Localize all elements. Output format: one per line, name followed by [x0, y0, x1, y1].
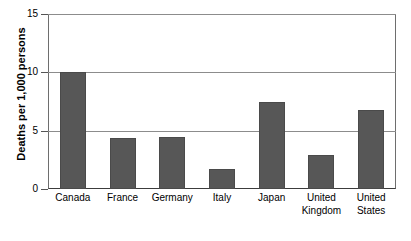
- y-axis-tick: [41, 189, 48, 190]
- x-axis-label-line: Japan: [258, 192, 285, 203]
- x-axis-label: Canada: [48, 192, 98, 205]
- x-axis-label: UnitedStates: [346, 192, 396, 217]
- y-axis-tick-label: 10: [8, 67, 38, 77]
- bar: [60, 72, 86, 189]
- x-axis-label-line: France: [107, 192, 138, 203]
- bar: [308, 155, 334, 189]
- y-axis-tick: [41, 14, 48, 15]
- y-axis-tick: [41, 72, 48, 73]
- y-axis-title: Deaths per 1,000 persons: [15, 0, 27, 189]
- bar: [159, 137, 185, 190]
- x-axis-label: Italy: [197, 192, 247, 205]
- bar: [110, 138, 136, 189]
- bar: [209, 169, 235, 189]
- bars-group: [48, 14, 396, 189]
- y-axis-tick-label: 0: [8, 184, 38, 194]
- bar: [259, 102, 285, 190]
- x-axis-label-line: Kingdom: [297, 205, 347, 218]
- x-axis-label-line: Germany: [152, 192, 193, 203]
- x-axis-label: UnitedKingdom: [297, 192, 347, 217]
- x-axis-label-line: Italy: [213, 192, 231, 203]
- x-axis-label: Japan: [247, 192, 297, 205]
- bar: [358, 110, 384, 189]
- x-axis-label-line: United: [357, 192, 386, 203]
- x-axis-label-line: United: [307, 192, 336, 203]
- bar-chart: Deaths per 1,000 persons 051015 CanadaFr…: [0, 0, 411, 241]
- x-axis-label: Germany: [147, 192, 197, 205]
- y-axis-tick: [41, 131, 48, 132]
- y-axis-tick-label: 15: [8, 9, 38, 19]
- x-axis-label-line: States: [346, 205, 396, 218]
- x-axis-label-line: Canada: [55, 192, 90, 203]
- x-axis-label: France: [98, 192, 148, 205]
- y-axis-tick-label: 5: [8, 126, 38, 136]
- x-axis-labels: CanadaFranceGermanyItalyJapanUnitedKingd…: [48, 192, 396, 236]
